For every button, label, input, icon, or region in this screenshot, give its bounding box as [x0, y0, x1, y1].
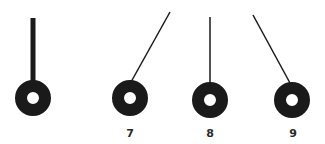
label-9: 9 [289, 127, 297, 140]
label-7: 7 [126, 127, 134, 140]
bob-9 [280, 88, 304, 112]
pendulum-fig-0 [21, 18, 45, 110]
pendulum-fig-8 [198, 17, 222, 112]
bob-7 [118, 86, 142, 110]
pendulum-fig-7 [118, 12, 170, 110]
rod-7 [131, 12, 170, 82]
label-8: 8 [206, 127, 214, 140]
bob-0 [21, 86, 45, 110]
pendulum-fig-9 [253, 15, 304, 112]
bob-8 [198, 88, 222, 112]
pendulum-diagram: 7 8 9 [0, 0, 325, 144]
rod-9 [253, 15, 290, 83]
